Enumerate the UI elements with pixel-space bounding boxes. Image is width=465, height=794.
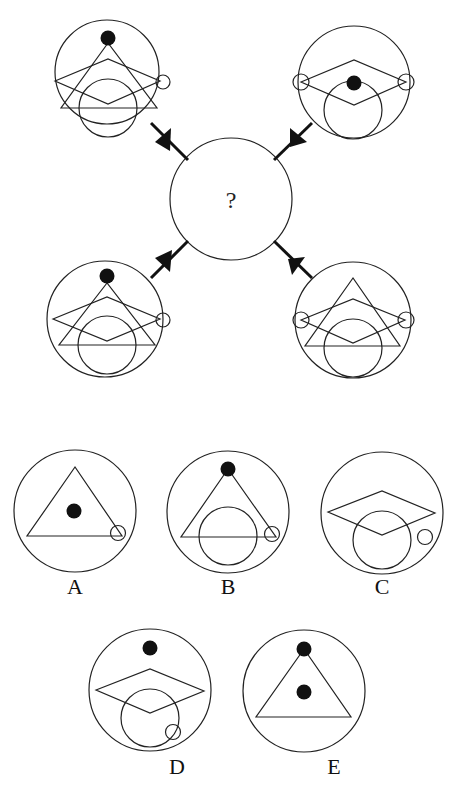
arrowhead-icon [155, 250, 172, 272]
triangle [181, 469, 276, 537]
diamond [96, 669, 204, 713]
inner-circle [199, 507, 257, 565]
option-c[interactable] [321, 452, 443, 574]
black-dot [221, 462, 236, 477]
small-circle [111, 526, 126, 541]
diamond [53, 297, 160, 341]
outer-circle [321, 452, 443, 574]
diamond [328, 491, 435, 535]
small-circle [265, 527, 280, 542]
black-dot [101, 31, 116, 46]
black-dot [347, 76, 362, 91]
black-dot-top [297, 642, 312, 657]
outer-circle [295, 262, 411, 378]
inner-circle [121, 689, 179, 747]
triangle [256, 649, 351, 717]
option-e[interactable] [243, 630, 365, 752]
option-a[interactable] [14, 450, 136, 572]
option-label-b: B [221, 574, 236, 599]
diamond [55, 59, 160, 104]
diamond [301, 299, 405, 343]
option-b[interactable] [167, 451, 289, 573]
puzzle-canvas: ? [0, 0, 465, 794]
clue-top-left [55, 20, 170, 137]
triangle [27, 467, 122, 536]
black-dot [100, 269, 115, 284]
option-label-e: E [327, 754, 340, 779]
clue-top-right [293, 26, 414, 139]
triangle [61, 43, 157, 108]
small-circle [166, 725, 181, 740]
question-mark: ? [226, 187, 237, 213]
inner-circle [324, 319, 382, 377]
clue-bottom-right [293, 262, 414, 378]
black-dot [143, 641, 158, 656]
option-d[interactable] [89, 629, 211, 751]
small-circle [418, 530, 433, 545]
option-label-c: C [375, 574, 390, 599]
option-label-d: D [169, 754, 185, 779]
black-dot-center [297, 685, 312, 700]
triangle [59, 283, 155, 345]
arrowhead-icon [288, 257, 305, 275]
inner-circle [353, 511, 411, 569]
option-label-a: A [67, 574, 83, 599]
black-dot [67, 504, 82, 519]
